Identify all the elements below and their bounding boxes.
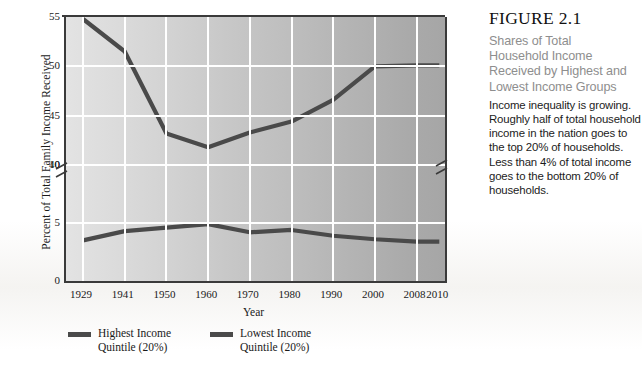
y-axis-tick-label: 10 xyxy=(24,159,60,170)
figure-description: Income inequality is growing. Roughly ha… xyxy=(489,98,642,197)
gridline-vertical xyxy=(374,17,376,281)
x-axis-tick-label: 2000 xyxy=(362,288,384,300)
y-axis-tick-labels: 555045401050 xyxy=(18,0,60,300)
legend-label: Lowest Income Quintile (20%) xyxy=(240,327,311,354)
legend-label: Highest Income Quintile (20%) xyxy=(98,327,171,354)
chart-legend: Highest Income Quintile (20%) Lowest Inc… xyxy=(62,327,382,363)
x-axis-tick-label: 1970 xyxy=(237,288,259,300)
gridline-vertical xyxy=(82,17,84,281)
figure-number: FIGURE 2.1 xyxy=(489,8,642,29)
gridline-vertical xyxy=(332,17,334,281)
y-axis-tick-label: 45 xyxy=(24,110,60,121)
x-axis-tick-label: 1980 xyxy=(279,288,301,300)
plot-area xyxy=(64,17,447,283)
legend-item-highest-income: Highest Income Quintile (20%) xyxy=(68,327,171,354)
y-axis-tick-label: 0 xyxy=(24,275,60,286)
legend-swatch-icon xyxy=(210,332,233,337)
gridline-vertical xyxy=(416,17,418,281)
figure-subtitle: Shares of Total Household Income Receive… xyxy=(489,34,642,95)
series-line-lowest-quintile xyxy=(83,224,439,241)
x-axis-tick-label: 2008 xyxy=(404,288,426,300)
gridline-vertical xyxy=(249,17,251,281)
x-axis-tick-label: 1990 xyxy=(320,288,342,300)
y-axis-tick-label: 5 xyxy=(24,217,60,228)
figure-chart: Percent of Total Family Income Received … xyxy=(0,0,462,368)
x-axis-tick-label: 1929 xyxy=(70,288,92,300)
x-axis-title: Year xyxy=(64,306,443,318)
gridline-vertical xyxy=(291,17,293,281)
x-axis-tick-label: 1960 xyxy=(195,288,217,300)
gridline-vertical xyxy=(165,17,167,281)
y-axis-tick-label: 55 xyxy=(24,11,60,22)
figure-caption-panel: FIGURE 2.1 Shares of Total Household Inc… xyxy=(489,8,642,208)
series-line-highest-quintile xyxy=(83,19,439,147)
x-axis-tick-label: 1941 xyxy=(112,288,134,300)
gridline-vertical xyxy=(207,17,209,281)
y-axis-tick-label: 50 xyxy=(24,60,60,71)
x-axis-tick-label: 1950 xyxy=(153,288,175,300)
gridline-vertical xyxy=(124,17,126,281)
legend-item-lowest-income: Lowest Income Quintile (20%) xyxy=(210,327,311,354)
x-axis-tick-label: 2010 xyxy=(426,288,448,300)
legend-swatch-icon xyxy=(68,332,91,337)
